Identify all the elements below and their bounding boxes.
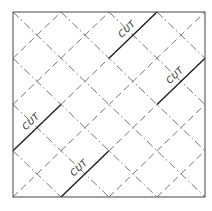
cut-label: CUT (116, 18, 138, 40)
cut-line (61, 151, 109, 197)
fold-line (13, 12, 205, 197)
fold-lines (13, 12, 205, 197)
cut-line (157, 58, 205, 104)
cut-line (13, 105, 61, 151)
cut-label: CUT (20, 110, 42, 132)
cut-label: CUT (68, 157, 90, 179)
cut-line (109, 12, 157, 58)
cutting-diagram: CUTCUTCUTCUT (0, 0, 212, 211)
cut-labels: CUTCUTCUTCUT (20, 18, 186, 178)
fold-line (109, 105, 205, 198)
cut-label: CUT (164, 64, 186, 86)
